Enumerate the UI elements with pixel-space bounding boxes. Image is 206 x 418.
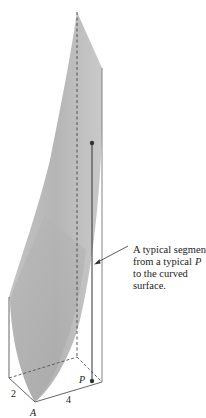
annotation-line-4: surface. xyxy=(133,280,166,291)
corner-label-a: A xyxy=(29,407,37,418)
annotation-line-2-var: P xyxy=(194,256,202,267)
length-label: 4 xyxy=(66,394,71,405)
point-label-p: P xyxy=(78,374,85,385)
annotation-arrow-head xyxy=(94,259,101,264)
annotation-line-1: A typical segment xyxy=(133,244,206,255)
annotation-arrow-line xyxy=(96,246,128,263)
annotation-line-3: to the curved xyxy=(133,268,189,279)
diagram: 2 4 A P A typical segment from a typical… xyxy=(0,0,206,418)
segment-top-point xyxy=(90,141,94,145)
annotation-line-2: from a typicalP xyxy=(133,256,202,267)
surface-lower-shading xyxy=(10,215,86,402)
width-label: 2 xyxy=(11,388,16,399)
point-p xyxy=(90,379,94,383)
annotation-line-2-text: from a typical xyxy=(133,256,192,267)
